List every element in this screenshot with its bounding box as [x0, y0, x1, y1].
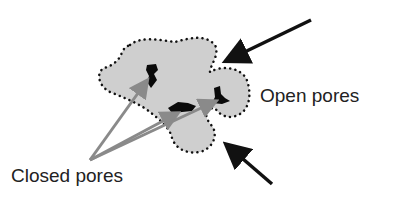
open-pore-arrow-bottom	[228, 146, 272, 184]
particle-body	[99, 38, 249, 153]
closed-pores-label: Closed pores	[11, 165, 123, 187]
open-pore-arrow-top	[228, 20, 311, 60]
open-pores-label: Open pores	[260, 85, 359, 107]
